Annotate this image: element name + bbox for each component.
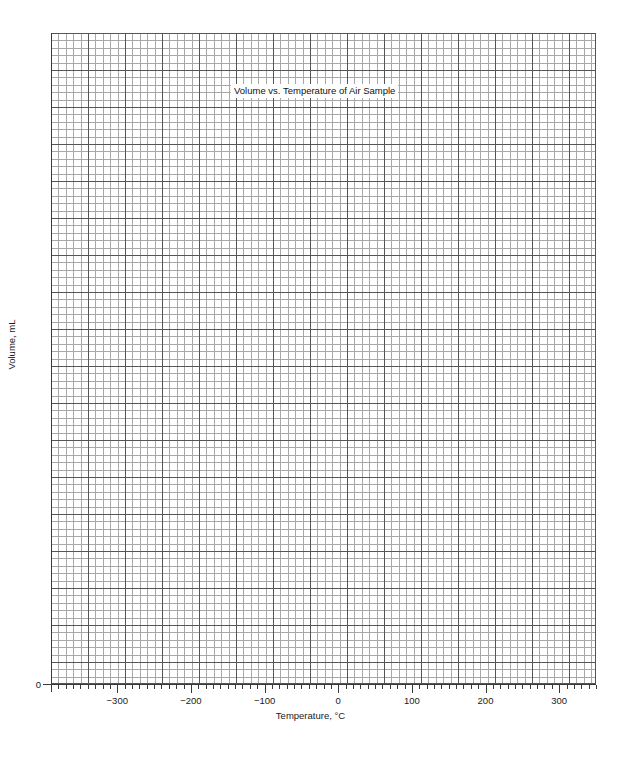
x-axis-minor-tick: [552, 685, 553, 689]
x-axis-tick-label: −100: [254, 695, 275, 706]
x-axis-minor-tick: [139, 685, 140, 689]
x-axis-minor-tick: [147, 685, 148, 689]
x-axis-major-tick: [117, 685, 118, 693]
x-axis-minor-tick: [567, 685, 568, 689]
x-axis-minor-tick: [346, 685, 347, 689]
x-axis-minor-tick: [198, 685, 199, 689]
x-axis-minor-tick: [471, 685, 472, 689]
x-axis-tick-label: 0: [336, 695, 341, 706]
x-axis-minor-tick: [103, 685, 104, 689]
x-axis-minor-tick: [456, 685, 457, 689]
x-axis-minor-tick: [574, 685, 575, 689]
x-axis-tick-label: 300: [551, 695, 567, 706]
x-axis-minor-tick: [405, 685, 406, 689]
x-axis-minor-tick: [331, 685, 332, 689]
x-axis-minor-tick: [434, 685, 435, 689]
x-axis-minor-tick: [441, 685, 442, 689]
x-axis-minor-tick: [88, 685, 89, 689]
x-axis-minor-tick: [589, 685, 590, 689]
x-axis-minor-tick: [161, 685, 162, 689]
x-axis-minor-tick: [449, 685, 450, 689]
plot-grid-area: [51, 33, 596, 684]
x-axis-minor-tick: [500, 685, 501, 689]
x-axis-minor-tick: [324, 685, 325, 689]
x-axis-minor-tick: [301, 685, 302, 689]
x-axis-minor-tick: [530, 685, 531, 689]
x-axis-minor-tick: [316, 685, 317, 689]
x-axis-minor-tick: [95, 685, 96, 689]
x-axis-title: Temperature, °C: [0, 710, 621, 721]
x-axis-minor-tick: [184, 685, 185, 689]
x-axis-minor-tick: [353, 685, 354, 689]
x-axis-minor-tick: [390, 685, 391, 689]
x-axis-minor-tick: [132, 685, 133, 689]
x-axis-minor-tick: [169, 685, 170, 689]
x-axis-minor-tick: [250, 685, 251, 689]
x-axis-minor-tick: [581, 685, 582, 689]
x-axis-minor-tick: [596, 685, 597, 689]
x-axis-minor-tick: [66, 685, 67, 689]
x-axis-minor-tick: [51, 685, 52, 689]
x-axis-minor-tick: [287, 685, 288, 689]
x-axis-minor-tick: [309, 685, 310, 689]
x-axis-minor-tick: [427, 685, 428, 689]
x-axis-minor-tick: [110, 685, 111, 689]
x-axis-minor-tick: [360, 685, 361, 689]
chart-figure: Volume vs. Temperature of Air Sample 0 −…: [0, 0, 621, 764]
x-axis-minor-tick: [397, 685, 398, 689]
x-axis-major-tick: [486, 685, 487, 693]
x-axis-major-tick: [265, 685, 266, 693]
chart-title: Volume vs. Temperature of Air Sample: [231, 84, 398, 98]
x-axis-minor-tick: [176, 685, 177, 689]
x-axis-minor-tick: [272, 685, 273, 689]
x-axis-minor-tick: [419, 685, 420, 689]
x-axis-tick-label: −300: [107, 695, 128, 706]
x-axis-minor-tick: [522, 685, 523, 689]
y-axis-tick-label-0: 0: [31, 679, 41, 690]
x-axis-minor-tick: [279, 685, 280, 689]
x-axis-minor-tick: [58, 685, 59, 689]
x-axis-minor-tick: [73, 685, 74, 689]
x-axis-tick-label: −200: [180, 695, 201, 706]
x-axis-minor-tick: [515, 685, 516, 689]
x-axis-minor-tick: [125, 685, 126, 689]
y-axis-tick-0: [43, 684, 51, 685]
x-axis-major-tick: [338, 685, 339, 693]
x-axis-minor-tick: [206, 685, 207, 689]
x-axis-minor-tick: [508, 685, 509, 689]
x-axis-minor-tick: [154, 685, 155, 689]
x-axis-minor-tick: [478, 685, 479, 689]
y-axis-title: Volume, mL: [6, 310, 17, 380]
x-axis-minor-tick: [537, 685, 538, 689]
x-axis-minor-tick: [80, 685, 81, 689]
x-axis-major-tick: [412, 685, 413, 693]
x-axis-major-tick: [191, 685, 192, 693]
x-axis-tick-label: 100: [404, 695, 420, 706]
x-axis-minor-tick: [220, 685, 221, 689]
x-axis-minor-tick: [375, 685, 376, 689]
x-axis-minor-tick: [463, 685, 464, 689]
x-axis-minor-tick: [235, 685, 236, 689]
x-axis-minor-tick: [544, 685, 545, 689]
x-axis-minor-tick: [213, 685, 214, 689]
x-axis-minor-tick: [242, 685, 243, 689]
y-axis-line: [51, 33, 52, 692]
x-axis-tick-label: 200: [478, 695, 494, 706]
x-axis-line: [43, 684, 596, 685]
x-axis-minor-tick: [368, 685, 369, 689]
x-axis-minor-tick: [257, 685, 258, 689]
x-axis-minor-tick: [493, 685, 494, 689]
x-axis-minor-tick: [382, 685, 383, 689]
x-axis-major-tick: [559, 685, 560, 693]
x-axis-minor-tick: [294, 685, 295, 689]
x-axis-minor-tick: [228, 685, 229, 689]
